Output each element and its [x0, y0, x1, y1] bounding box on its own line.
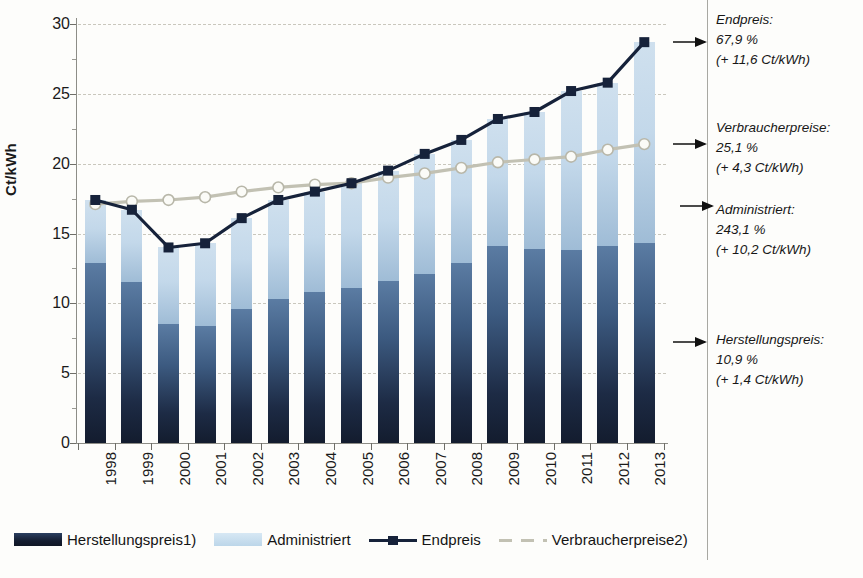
bar-segment-herstellungspreis	[561, 250, 582, 443]
x-tick-2000: 2000	[176, 452, 193, 485]
bar-segment-herstellungspreis	[378, 281, 399, 443]
bar-segment-administriert	[304, 192, 325, 293]
bar-column[interactable]	[195, 0, 216, 443]
bar-column[interactable]	[487, 0, 508, 443]
x-tick-2003: 2003	[285, 452, 302, 485]
x-tick-mark	[590, 443, 591, 450]
legend-swatch-endpreis	[369, 533, 417, 546]
bar-column[interactable]	[121, 0, 142, 443]
x-tick-mark	[78, 443, 79, 450]
x-tick-mark	[407, 443, 408, 450]
bar-segment-herstellungspreis	[524, 249, 545, 443]
x-tick-1999: 1999	[139, 452, 156, 485]
x-tick-mark	[481, 443, 482, 450]
x-tick-mark	[664, 443, 665, 450]
bar-segment-herstellungspreis	[634, 243, 655, 443]
x-tick-mark	[371, 443, 372, 450]
bar-segment-herstellungspreis	[597, 246, 618, 443]
bar-segment-administriert	[487, 119, 508, 246]
annotation-herstellung: Herstellungspreis:10,9 %(+ 1,4 Ct/kWh)	[716, 330, 863, 390]
bar-segment-administriert	[378, 171, 399, 281]
chart-plot-area: Ct/kWh 302520151050 19981999200020012002…	[0, 0, 700, 512]
annotation-percent: 25,1 %	[716, 138, 863, 158]
bar-column[interactable]	[378, 0, 399, 443]
annotation-label: Verbraucherpreise:	[716, 118, 863, 138]
legend-label-verbraucherpreise: Verbraucherpreise2)	[552, 531, 688, 548]
bar-segment-herstellungspreis	[121, 282, 142, 443]
bar-column[interactable]	[231, 0, 252, 443]
annotation-label: Herstellungspreis:	[716, 330, 863, 350]
bar-column[interactable]	[304, 0, 325, 443]
y-tick-0: 0	[28, 434, 70, 452]
legend-label-administriert: Administriert	[267, 531, 350, 548]
legend-item-endpreis[interactable]: Endpreis	[369, 531, 481, 548]
legend-swatch-administriert	[214, 533, 262, 546]
bar-segment-administriert	[341, 183, 362, 288]
bar-segment-administriert	[414, 154, 435, 274]
x-tick-mark	[188, 443, 189, 450]
bar-segment-administriert	[268, 200, 289, 299]
bar-column[interactable]	[268, 0, 289, 443]
y-axis-title: Ct/kWh	[2, 143, 19, 196]
x-tick-mark	[298, 443, 299, 450]
arrow-icon	[673, 137, 707, 151]
bar-column[interactable]	[524, 0, 545, 443]
legend-swatch-herstellungspreis	[14, 533, 62, 546]
annotation-delta: (+ 4,3 Ct/kWh)	[716, 158, 863, 178]
arrow-icon	[673, 335, 707, 349]
y-tick-5: 5	[28, 364, 70, 382]
bar-segment-administriert	[597, 83, 618, 246]
y-tick-25: 25	[28, 85, 70, 103]
arrow-icon	[673, 35, 707, 49]
bar-column[interactable]	[158, 0, 179, 443]
footnote-text	[14, 566, 844, 578]
bar-segment-herstellungspreis	[231, 309, 252, 443]
legend-item-administriert[interactable]: Administriert	[214, 531, 350, 548]
bar-segment-herstellungspreis	[268, 299, 289, 443]
x-tick-mark	[517, 443, 518, 450]
x-tick-2006: 2006	[395, 452, 412, 485]
x-axis-line	[76, 443, 668, 444]
bar-column[interactable]	[451, 0, 472, 443]
chart-page: Ct/kWh 302520151050 19981999200020012002…	[0, 0, 863, 578]
annotation-verbraucher: Verbraucherpreise:25,1 %(+ 4,3 Ct/kWh)	[716, 118, 863, 178]
bar-column[interactable]	[634, 0, 655, 443]
bar-segment-herstellungspreis	[304, 292, 325, 443]
bar-segment-administriert	[451, 140, 472, 263]
x-tick-2013: 2013	[651, 452, 668, 485]
legend-item-herstellungspreis[interactable]: Herstellungspreis1)	[14, 531, 196, 548]
bar-segment-herstellungspreis	[158, 324, 179, 443]
bar-column[interactable]	[85, 0, 106, 443]
x-tick-mark	[554, 443, 555, 450]
x-tick-2008: 2008	[468, 452, 485, 485]
bar-segment-administriert	[524, 112, 545, 249]
bar-segment-herstellungspreis	[487, 246, 508, 443]
y-tick-10: 10	[28, 294, 70, 312]
x-tick-1998: 1998	[102, 452, 119, 485]
bar-segment-herstellungspreis	[414, 274, 435, 443]
bar-series-group	[78, 0, 666, 443]
x-tick-2004: 2004	[322, 452, 339, 485]
bar-column[interactable]	[341, 0, 362, 443]
y-tick-30: 30	[28, 15, 70, 33]
arrow-icon	[680, 199, 714, 213]
bar-column[interactable]	[561, 0, 582, 443]
annotation-label: Administriert:	[716, 200, 863, 220]
legend-label-herstellungspreis: Herstellungspreis1)	[67, 531, 196, 548]
x-tick-2001: 2001	[212, 452, 229, 485]
annotation-delta: (+ 1,4 Ct/kWh)	[716, 370, 863, 390]
bar-column[interactable]	[597, 0, 618, 443]
legend-item-verbraucherpreise[interactable]: Verbraucherpreise2)	[499, 531, 688, 548]
bar-column[interactable]	[414, 0, 435, 443]
x-tick-2011: 2011	[578, 452, 595, 484]
x-tick-mark	[224, 443, 225, 450]
bar-segment-herstellungspreis	[195, 326, 216, 443]
x-tick-2012: 2012	[615, 452, 632, 485]
annotation-delta: (+ 10,2 Ct/kWh)	[716, 240, 863, 260]
annotation-label: Endpreis:	[716, 10, 863, 30]
annotation-percent: 67,9 %	[716, 30, 863, 50]
bar-segment-administriert	[231, 218, 252, 309]
legend-label-endpreis: Endpreis	[422, 531, 481, 548]
bar-segment-herstellungspreis	[85, 263, 106, 443]
x-tick-mark	[115, 443, 116, 450]
